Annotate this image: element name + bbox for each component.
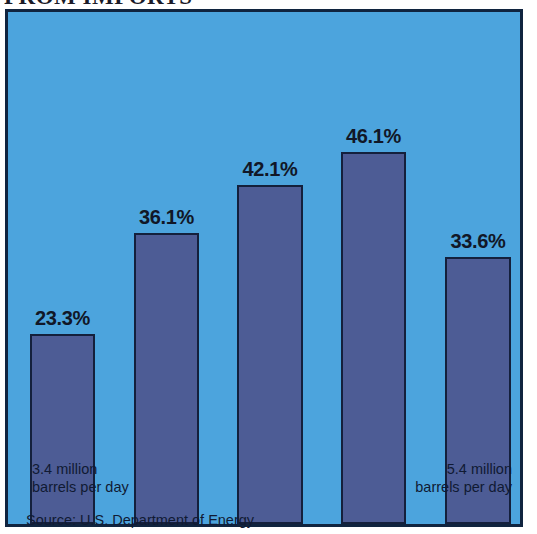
bar-group: 36.1% 1973 [134,115,199,524]
bar-value-label: 46.1% [346,125,401,148]
bar-value-label: 42.1% [242,158,297,181]
plot-area: 23.3% 1970 36.1% 1973 42.1% 1976 46.1% 1… [8,12,520,524]
annotation-right-line1: 5.4 million [415,460,512,478]
bar-value-label: 23.3% [35,307,90,330]
annotation-left-line1: 3.4 million [32,460,129,478]
annotation-left: 3.4 million barrels per day [32,460,129,496]
chart-frame: 23.3% 1970 36.1% 1973 42.1% 1976 46.1% 1… [5,9,523,527]
chart-page: FROM IMPORTS 23.3% 1970 36.1% 1973 42.1%… [0,0,537,534]
bar[interactable] [134,233,199,524]
bar[interactable] [341,152,406,524]
annotation-right: 5.4 million barrels per day [415,460,512,496]
bar-value-label: 33.6% [450,230,505,253]
bar-group: 42.1% 1976 [237,115,303,524]
bar[interactable] [237,185,303,524]
annotation-left-line2: barrels per day [32,478,129,496]
bar-group: 46.1% 1977 [341,115,406,524]
bar-value-label: 36.1% [139,206,194,229]
page-title: FROM IMPORTS [4,0,324,8]
annotation-right-line2: barrels per day [415,478,512,496]
source-note: Source: U.S. Department of Energy [26,512,254,528]
